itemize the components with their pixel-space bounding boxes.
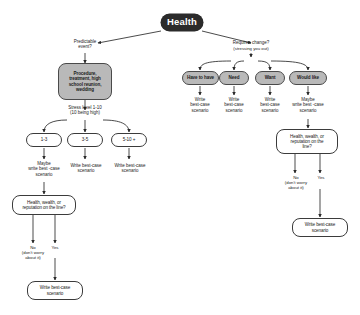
label-right-yes: Yes [311,175,331,180]
node-option-would-like[interactable]: Would like [289,71,327,85]
label-predictable-event: Predictable event? [62,39,108,50]
node-option-want[interactable]: Want [255,71,285,85]
label-requires-change-subtext: (stressing you out) [222,46,280,51]
node-option-need[interactable]: Need [219,71,249,85]
node-stress-level-3-5[interactable]: 3-5 [67,133,103,147]
node-stakes-question-right[interactable]: Health, wealth, or reputation on the lin… [276,129,338,154]
label-action-need: Write best-case scenario [215,97,253,113]
node-stress-level-1-3[interactable]: 1-3 [26,133,62,147]
node-stress-level-5-10[interactable]: 5-10 + [111,133,147,147]
label-action-level-3-5: Write best-case scenario [63,163,109,174]
node-option-have-to-have[interactable]: Have to have [182,71,219,85]
flowchart-connectors [0,0,360,315]
label-action-want: Write best-case scenario [251,97,289,113]
label-left-yes: Yes [45,245,65,250]
node-stakes-question-left[interactable]: Health, wealth, or reputation on the lin… [12,195,76,215]
label-action-level-5-10: Write best-case scenario [107,163,153,174]
flowchart-canvas: Health Predictable event? Procedure, tre… [0,0,360,315]
label-action-level-1-3: Maybe write best -case scenario [21,161,67,177]
node-left-outcome[interactable]: Write best-case scenario [27,281,83,300]
node-root-health[interactable]: Health [161,14,203,31]
label-action-would-like: Maybe write best -case scenario [285,97,331,113]
label-action-have-to-have: Write best-case scenario [181,97,219,113]
label-stress-level-scale: Stress level 1-10 (10 being high) [54,105,116,116]
label-requires-change: Requires change? [226,40,276,45]
node-right-outcome[interactable]: Write best-case scenario [292,218,348,237]
node-event-category[interactable]: Procedure, treatment, high school reunio… [58,63,112,100]
